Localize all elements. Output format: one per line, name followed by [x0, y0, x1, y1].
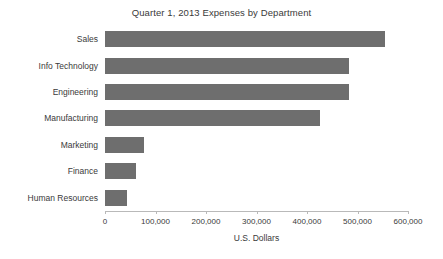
bar-category-label: Sales [77, 34, 98, 44]
bar-category-label: Finance [68, 166, 98, 176]
x-axis-tick [206, 211, 207, 214]
x-axis-tick [105, 211, 106, 214]
x-axis-tick-label: 0 [103, 217, 107, 226]
bar-category-label: Marketing [61, 140, 98, 150]
x-axis-tick [307, 211, 308, 214]
bar [105, 110, 320, 126]
x-axis-tick-label: 300,000 [242, 217, 271, 226]
bar-category-label: Human Resources [28, 193, 98, 203]
x-axis-tick [156, 211, 157, 214]
bar [105, 58, 349, 74]
bar [105, 137, 144, 153]
bar-row: Marketing [105, 132, 408, 158]
bar-category-label: Engineering [53, 87, 98, 97]
plot-area: SalesInfo TechnologyEngineeringManufactu… [105, 26, 408, 211]
x-axis-tick-label: 500,000 [343, 217, 372, 226]
chart-title: Quarter 1, 2013 Expenses by Department [0, 7, 443, 18]
x-axis-title: U.S. Dollars [105, 233, 408, 243]
x-axis-tick [257, 211, 258, 214]
bar-row: Sales [105, 26, 408, 52]
bar-category-label: Info Technology [39, 61, 98, 71]
bar-row: Manufacturing [105, 105, 408, 131]
bar-row: Engineering [105, 79, 408, 105]
bar-row: Info Technology [105, 52, 408, 78]
bar [105, 163, 136, 179]
x-axis-tick [358, 211, 359, 214]
bar [105, 84, 349, 100]
bar-chart: Quarter 1, 2013 Expenses by Department S… [0, 0, 443, 259]
x-axis-tick-label: 400,000 [293, 217, 322, 226]
bar [105, 31, 385, 47]
bar-category-label: Manufacturing [44, 113, 98, 123]
x-axis-tick [408, 211, 409, 214]
x-axis-tick-label: 100,000 [141, 217, 170, 226]
x-axis-tick-label: 600,000 [394, 217, 423, 226]
bar [105, 190, 127, 206]
x-axis-tick-label: 200,000 [192, 217, 221, 226]
bar-row: Finance [105, 158, 408, 184]
bar-row: Human Resources [105, 185, 408, 211]
